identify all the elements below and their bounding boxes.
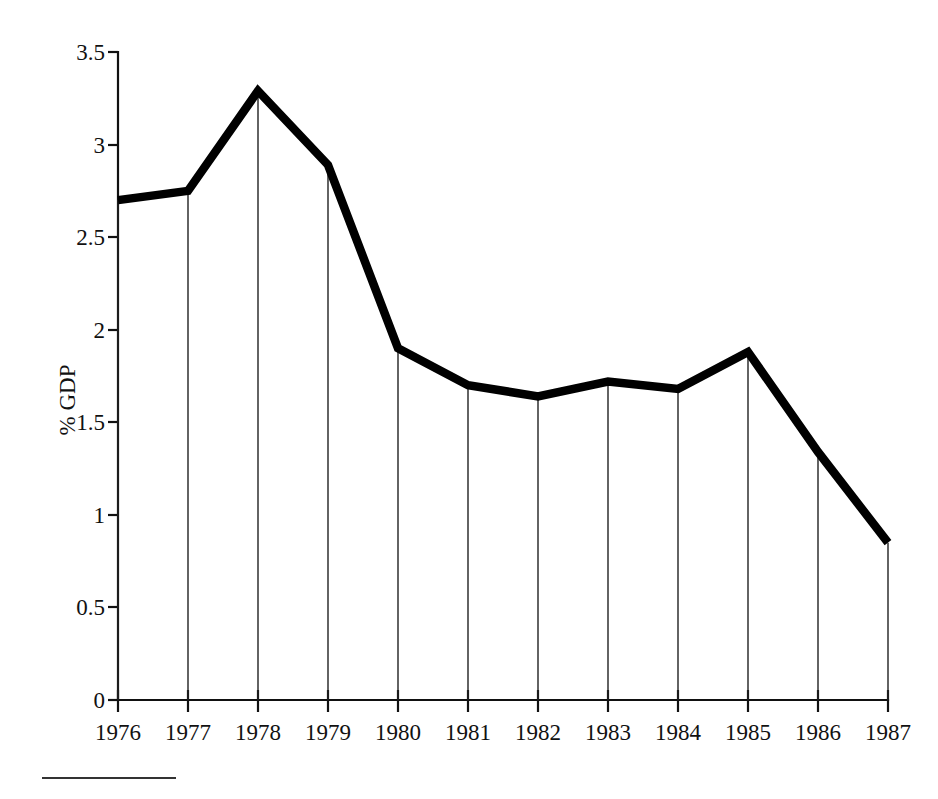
x-tick-label: 1987 — [865, 720, 911, 745]
y-tick-label: 1 — [94, 503, 106, 528]
x-tick-label: 1978 — [235, 720, 281, 745]
drop-lines — [118, 91, 888, 700]
x-tick-label: 1985 — [725, 720, 771, 745]
x-tick-labels: 1976 1977 1978 1979 1980 1981 1982 1983 … — [95, 720, 911, 745]
x-tick-label: 1976 — [95, 720, 141, 745]
series-line-gdp — [118, 91, 888, 543]
x-tick-label: 1979 — [305, 720, 351, 745]
x-tick-label: 1984 — [655, 720, 702, 745]
x-tick-label: 1982 — [515, 720, 561, 745]
line-chart: % GDP 3.5 3 2.5 2 1.5 1 0.5 0 — [0, 0, 938, 799]
y-tick-marks — [108, 52, 118, 700]
y-tick-label: 3.5 — [76, 40, 105, 65]
chart-figure: % GDP 3.5 3 2.5 2 1.5 1 0.5 0 — [0, 0, 938, 799]
y-tick-label: 0.5 — [76, 595, 105, 620]
y-tick-label: 2 — [94, 318, 106, 343]
y-tick-label: 3 — [94, 133, 106, 158]
x-tick-label: 1977 — [165, 720, 211, 745]
x-tick-label: 1980 — [375, 720, 421, 745]
x-tick-label: 1981 — [445, 720, 491, 745]
x-tick-label: 1986 — [795, 720, 841, 745]
y-tick-label: 2.5 — [76, 225, 105, 250]
y-tick-label: 0 — [94, 688, 106, 713]
y-tick-labels: 3.5 3 2.5 2 1.5 1 0.5 0 — [76, 40, 105, 713]
y-tick-label: 1.5 — [76, 410, 105, 435]
x-tick-label: 1983 — [585, 720, 631, 745]
